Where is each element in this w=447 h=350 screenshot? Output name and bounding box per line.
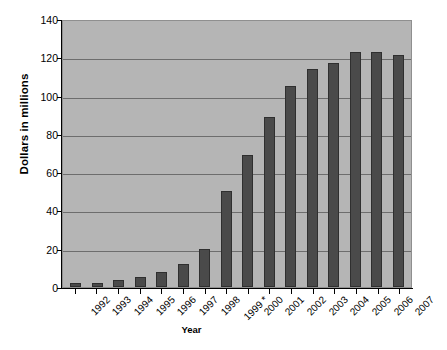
x-tick-label: 1996 (175, 294, 199, 318)
bar[interactable] (307, 69, 318, 287)
x-axis-title-text: Year (181, 324, 201, 335)
x-tick-mark (334, 289, 335, 294)
bar-slot (302, 21, 324, 287)
x-tick-mark (140, 289, 141, 294)
y-tick-label: 120 (18, 52, 58, 64)
bar[interactable] (70, 283, 81, 287)
bar[interactable] (285, 86, 296, 287)
x-tick-label: 2002 (305, 294, 329, 318)
x-tick-mark (183, 289, 184, 294)
bar[interactable] (199, 249, 210, 287)
bar[interactable] (135, 277, 146, 287)
x-tick-mark (356, 289, 357, 294)
bar[interactable] (92, 283, 103, 287)
y-tick-mark (57, 173, 62, 174)
y-tick-mark (57, 211, 62, 212)
y-tick-mark (57, 288, 62, 289)
x-tick-label: 2005 (369, 294, 393, 318)
bar[interactable] (328, 63, 339, 287)
x-tick-label: 1995 (153, 294, 177, 318)
bar[interactable] (156, 272, 167, 287)
bar[interactable] (371, 52, 382, 287)
bar[interactable] (113, 280, 124, 287)
bar[interactable] (350, 52, 361, 287)
y-tick-label: 140 (18, 14, 58, 26)
y-tick-label: 80 (18, 129, 58, 141)
bar-slot (323, 21, 345, 287)
x-tick-mark (248, 289, 249, 294)
x-tick-mark (269, 289, 270, 294)
bar-slot (65, 21, 87, 287)
x-tick-mark (313, 289, 314, 294)
y-tick-label: 20 (18, 244, 58, 256)
x-tick-mark (75, 289, 76, 294)
y-tick-mark (57, 135, 62, 136)
bar[interactable] (178, 264, 189, 287)
x-tick-mark (96, 289, 97, 294)
bar-slot (366, 21, 388, 287)
bar-slot (194, 21, 216, 287)
bar[interactable] (393, 55, 404, 287)
y-tick-label: 40 (18, 205, 58, 217)
bar-slot (130, 21, 152, 287)
x-tick-mark (118, 289, 119, 294)
x-tick-mark (291, 289, 292, 294)
plot-area (62, 20, 412, 288)
bar-slot (280, 21, 302, 287)
bar-chart: Dollars in millions 020406080100120140 1… (0, 0, 447, 350)
bar[interactable] (221, 191, 232, 287)
bar[interactable] (242, 155, 253, 287)
x-axis-title: Year (0, 324, 447, 335)
y-tick-label: 60 (18, 167, 58, 179)
y-tick-label: 0 (18, 282, 58, 294)
bar-slot (151, 21, 173, 287)
y-tick-mark (57, 250, 62, 251)
x-tick-mark (161, 289, 162, 294)
x-tick-mark (378, 289, 379, 294)
x-tick-label: 2001 (283, 294, 307, 318)
y-tick-mark (57, 97, 62, 98)
bar-slot (237, 21, 259, 287)
y-tick-mark (57, 20, 62, 21)
x-axis-line (61, 288, 413, 289)
bar-slot (173, 21, 195, 287)
bar-series (63, 21, 411, 287)
x-tick-label: 2004 (348, 294, 372, 318)
y-tick-mark (57, 58, 62, 59)
bar-slot (108, 21, 130, 287)
y-tick-label: 100 (18, 91, 58, 103)
x-tick-label: 2006 (391, 294, 415, 318)
bar-slot (345, 21, 367, 287)
bar-slot (388, 21, 410, 287)
x-tick-label: 1994 (132, 294, 156, 318)
x-tick-label: 1998 (218, 294, 242, 318)
x-tick-label: 1997 (196, 294, 220, 318)
x-tick-label: 1993 (110, 294, 134, 318)
x-tick-mark (226, 289, 227, 294)
x-tick-label: 1992 (88, 294, 112, 318)
x-tick-mark (399, 289, 400, 294)
x-tick-mark (205, 289, 206, 294)
x-tick-label: 2003 (326, 294, 350, 318)
bar[interactable] (264, 117, 275, 287)
bar-slot (259, 21, 281, 287)
bar-slot (216, 21, 238, 287)
x-tick-label: 2007 (413, 294, 437, 318)
bar-slot (87, 21, 109, 287)
